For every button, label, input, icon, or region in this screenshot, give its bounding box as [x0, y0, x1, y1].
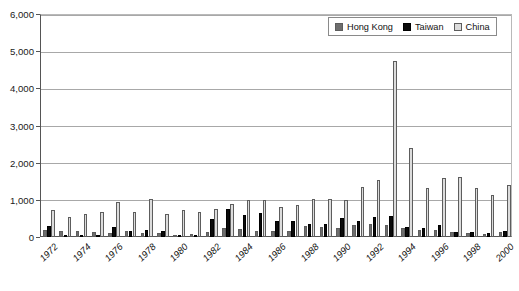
x-axis-tick-label: 1994 — [389, 241, 418, 270]
y-axis-tick-label: 4,000 — [1, 83, 34, 94]
bar-china-1984 — [247, 200, 251, 237]
bar-china-1980 — [182, 210, 186, 237]
bar-taiwan-1980 — [178, 235, 182, 237]
bar-china-1996 — [442, 178, 446, 237]
bar-chart: 01,0002,0003,0004,0005,0006,000 19721974… — [0, 0, 519, 291]
y-axis-tick-mark — [36, 88, 40, 89]
y-axis-tick-mark — [36, 237, 40, 238]
y-axis-tick-label: 1,000 — [1, 194, 34, 205]
bar-group — [74, 14, 90, 237]
bar-hong-kong-1979 — [157, 233, 161, 237]
y-axis-tick-mark — [36, 163, 40, 164]
bar-hong-kong-1972 — [43, 230, 47, 237]
bar-hong-kong-1991 — [352, 225, 356, 237]
bar-taiwan-1997 — [454, 232, 458, 237]
bar-group — [318, 14, 334, 237]
bar-taiwan-1979 — [161, 231, 165, 237]
legend-swatch-icon — [403, 23, 411, 31]
bar-taiwan-1977 — [129, 231, 133, 237]
bar-hong-kong-1976 — [108, 233, 112, 237]
bar-group — [57, 14, 73, 237]
bar-hong-kong-2000 — [499, 232, 503, 237]
y-axis-tick-mark — [36, 200, 40, 201]
bar-group — [236, 14, 252, 237]
bar-hong-kong-1989 — [320, 227, 324, 237]
bar-hong-kong-1985 — [255, 231, 259, 237]
legend-swatch-icon — [335, 23, 343, 31]
bar-china-1981 — [198, 212, 202, 237]
bar-taiwan-1973 — [64, 235, 68, 237]
bar-hong-kong-1996 — [434, 230, 438, 237]
x-axis-tick-label: 1992 — [356, 241, 385, 270]
bar-group — [253, 14, 269, 237]
legend-item-tw: Taiwan — [403, 22, 444, 32]
bar-group — [171, 14, 187, 237]
bar-china-1993 — [393, 61, 397, 237]
bar-taiwan-1992 — [373, 217, 377, 237]
x-axis: 1972197419761978198019821984198619881990… — [0, 239, 519, 291]
bar-taiwan-1972 — [47, 226, 51, 237]
y-axis-tick-label: 3,000 — [1, 120, 34, 131]
x-axis-tick-label: 2000 — [487, 241, 516, 270]
bar-hong-kong-1980 — [173, 235, 177, 237]
bar-hong-kong-1997 — [450, 232, 454, 237]
bar-group — [90, 14, 106, 237]
legend-item-hk: Hong Kong — [335, 22, 393, 32]
bar-hong-kong-1982 — [206, 232, 210, 237]
bar-china-1987 — [296, 205, 300, 237]
legend-label: China — [466, 22, 490, 32]
bar-hong-kong-1973 — [59, 231, 63, 237]
bar-taiwan-1993 — [389, 216, 393, 237]
y-axis-tick-label: 5,000 — [1, 46, 34, 57]
bar-china-1986 — [279, 207, 283, 237]
x-axis-tick-label: 1996 — [422, 241, 451, 270]
bar-taiwan-1996 — [438, 225, 442, 237]
bar-hong-kong-1993 — [385, 225, 389, 237]
y-axis-tick-mark — [36, 126, 40, 127]
bar-taiwan-1999 — [487, 233, 491, 237]
x-axis-tick-label: 1986 — [259, 241, 288, 270]
legend-label: Taiwan — [415, 22, 444, 32]
bar-china-1994 — [409, 148, 413, 237]
bar-hong-kong-1978 — [141, 233, 145, 237]
legend-swatch-icon — [454, 23, 462, 31]
bar-china-1979 — [165, 214, 169, 237]
bar-china-1992 — [377, 180, 381, 237]
bar-hong-kong-1992 — [369, 224, 373, 237]
legend-item-cn: China — [454, 22, 490, 32]
bar-taiwan-1981 — [194, 235, 198, 237]
bar-group — [415, 14, 431, 237]
bar-taiwan-1989 — [324, 224, 328, 237]
x-axis-tick-label: 1978 — [129, 241, 158, 270]
bar-group — [399, 14, 415, 237]
bar-group — [464, 14, 480, 237]
legend-label: Hong Kong — [347, 22, 393, 32]
bar-group — [334, 14, 350, 237]
bar-hong-kong-1983 — [222, 228, 226, 237]
bar-taiwan-1976 — [112, 227, 116, 237]
bar-taiwan-1982 — [210, 219, 214, 237]
bar-china-1983 — [230, 204, 234, 237]
bar-china-1973 — [68, 217, 72, 237]
y-axis-tick-label: 2,000 — [1, 157, 34, 168]
y-axis-tick-mark — [36, 14, 40, 15]
bar-hong-kong-1984 — [238, 229, 242, 237]
bar-group — [204, 14, 220, 237]
bar-taiwan-1978 — [145, 230, 149, 237]
chart-legend: Hong KongTaiwanChina — [328, 17, 497, 36]
bar-china-1998 — [475, 188, 479, 237]
bar-group — [448, 14, 464, 237]
bar-group — [106, 14, 122, 237]
x-axis-tick-label: 1982 — [194, 241, 223, 270]
x-axis-tick-label: 1988 — [291, 241, 320, 270]
bar-taiwan-1983 — [226, 209, 230, 237]
bar-china-1975 — [100, 212, 104, 237]
bar-group — [41, 14, 57, 237]
bar-taiwan-1991 — [357, 221, 361, 237]
bar-group — [480, 14, 496, 237]
bar-taiwan-1974 — [80, 235, 84, 237]
bar-taiwan-1988 — [308, 224, 312, 237]
bar-china-1974 — [84, 214, 88, 237]
bar-taiwan-1994 — [405, 227, 409, 237]
bar-china-1990 — [344, 200, 348, 237]
